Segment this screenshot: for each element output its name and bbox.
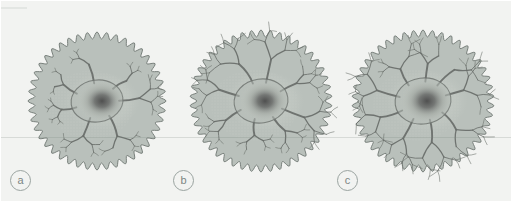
figure-canvas: abc — [0, 0, 512, 202]
nucleus — [400, 78, 453, 124]
cell-illustration — [1, 1, 512, 202]
top-edge-artifact — [1, 7, 27, 9]
cell-panel: c — [1, 1, 172, 202]
panel-label-c: c — [337, 170, 358, 191]
